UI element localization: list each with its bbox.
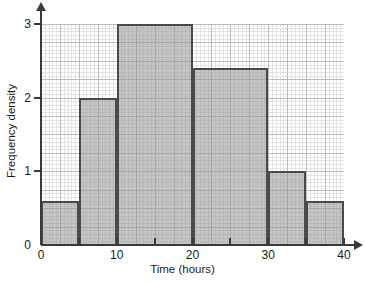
y-axis-title: Frequency density [5,71,17,191]
histogram-bar [41,201,79,245]
histogram-bar [117,24,193,245]
x-tick-mark [116,238,118,245]
x-tick-label: 10 [110,248,123,262]
y-axis-line [40,10,42,245]
x-tick-mark [343,238,345,245]
x-tick-label: 30 [262,248,275,262]
y-tick-label: 1 [20,164,31,178]
x-tick-mark [229,238,231,245]
x-tick-mark [305,238,307,245]
y-tick-mark [34,170,41,172]
y-tick-label: 2 [20,91,31,105]
plot-area [41,24,344,245]
x-tick-mark [40,238,42,245]
y-tick-mark [34,23,41,25]
y-tick-mark [34,97,41,99]
x-axis-line [41,244,360,246]
x-tick-mark [192,238,194,245]
histogram-bar [306,201,344,245]
x-axis-title: Time (hours) [0,263,365,275]
y-axis-arrow-icon [36,2,46,11]
x-tick-label: 40 [337,248,350,262]
x-axis-arrow-icon [354,240,363,250]
histogram-chart: 010203040 0123 Time (hours) Frequency de… [0,0,365,282]
histogram-bar [193,68,269,245]
histogram-bar [268,171,306,245]
y-tick-label: 0 [20,238,31,252]
bar-series [41,24,344,245]
y-tick-label: 3 [20,17,31,31]
x-tick-mark [267,238,269,245]
x-tick-mark [78,238,80,245]
x-tick-mark [154,238,156,245]
x-tick-label: 0 [38,248,45,262]
x-tick-label: 20 [186,248,199,262]
histogram-bar [79,98,117,245]
